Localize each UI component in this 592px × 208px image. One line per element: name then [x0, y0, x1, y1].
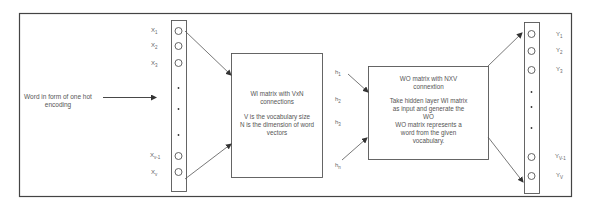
- output-label-yv-1: YV-1: [555, 153, 566, 162]
- wo-desc-line: word from the given: [370, 129, 487, 137]
- input-description: Word in form of one hot encoding: [3, 93, 113, 109]
- arrow-wo-to-yv: [488, 137, 523, 182]
- wo-desc-line: vocabulary.: [370, 137, 487, 145]
- wi-title-line: connections: [233, 98, 321, 106]
- output-neurons: [528, 31, 535, 180]
- input-label-x1: X1: [151, 27, 158, 36]
- hidden-label-h3: h3: [335, 119, 341, 128]
- wo-desc-line: WO: [370, 113, 487, 121]
- hidden-label-hn: hn: [335, 162, 341, 171]
- input-ellipsis-dots: [178, 87, 180, 136]
- wo-desc-line: Take hidden layer WI matrix: [370, 97, 487, 105]
- arrow-wo-to-y1: [488, 33, 522, 66]
- arrow-hn-to-wo: [342, 138, 367, 160]
- input-label-xv: Xv: [151, 169, 157, 178]
- input-layer-column: [172, 21, 187, 192]
- input-neurons: [175, 28, 182, 176]
- wo-box-text: WO matrix with NXV connextion Take hidde…: [370, 75, 487, 145]
- arrow-h1-to-wo: [348, 74, 368, 92]
- input-description-line: Word in form of one hot: [3, 93, 113, 101]
- input-label-xv-1: Xv-1: [150, 152, 160, 161]
- wi-title-line: WI matrix with VxN: [233, 90, 321, 98]
- output-label-yv: YV: [556, 172, 563, 181]
- wo-desc-line: as input and generate the: [370, 105, 487, 113]
- wi-box-text: WI matrix with VxN connections V is the …: [233, 90, 321, 137]
- wi-desc-line: N is the dimension of word: [233, 121, 321, 129]
- wo-title-line: WO matrix with NXV: [370, 75, 487, 83]
- wo-title-line: connextion: [370, 83, 487, 91]
- output-label-y2: Y2: [556, 47, 563, 56]
- input-label-x3: X3: [151, 60, 158, 69]
- wi-desc-line: vectors: [233, 129, 321, 137]
- output-ellipsis-dots: [531, 91, 533, 129]
- input-label-x2: X2: [151, 42, 158, 51]
- arrow-x1-to-wi: [185, 31, 231, 75]
- arrow-xv-to-wi: [185, 144, 231, 179]
- output-layer-column: [525, 23, 540, 194]
- wi-desc-line: V is the vocabulary size: [233, 113, 321, 121]
- output-label-y3: Y3: [556, 66, 563, 75]
- output-label-y1: Y1: [556, 31, 563, 40]
- hidden-label-h1: h1: [335, 69, 341, 78]
- input-description-line: encoding: [3, 101, 113, 109]
- hidden-label-h2: h2: [335, 96, 341, 105]
- wo-desc-line: WO matrix represents a: [370, 121, 487, 129]
